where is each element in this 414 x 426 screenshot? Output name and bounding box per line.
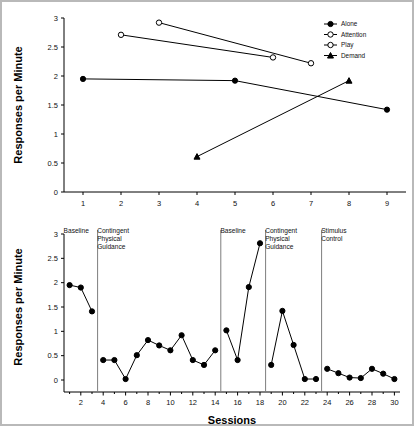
y-tick-label: 0 xyxy=(54,188,58,197)
data-point xyxy=(369,366,374,371)
x-tick-label: 8 xyxy=(146,398,150,407)
data-point xyxy=(80,76,85,81)
x-tick-label: 4 xyxy=(101,398,105,407)
y-tick-label: 2.5 xyxy=(48,43,58,52)
series-alone xyxy=(80,76,389,112)
y-tick-label: 2 xyxy=(54,278,58,287)
phase-1: Baseline xyxy=(64,227,95,314)
data-point xyxy=(201,362,206,367)
data-point xyxy=(336,371,341,376)
y-tick-label: 0 xyxy=(54,376,58,385)
x-tick-label: 20 xyxy=(278,398,286,407)
data-point xyxy=(232,78,237,83)
series-line xyxy=(121,35,273,58)
data-point xyxy=(302,376,307,381)
phase-label: Physical xyxy=(265,235,290,243)
x-tick-label: 30 xyxy=(390,398,398,407)
phase-4: ContingentPhysicalGuidance xyxy=(265,227,318,382)
data-point xyxy=(112,357,117,362)
data-point xyxy=(123,376,128,381)
x-tick-label: 16 xyxy=(233,398,241,407)
data-point xyxy=(308,61,313,66)
legend-marker xyxy=(328,21,333,26)
data-point xyxy=(67,283,72,288)
bottom-axes: 00.511.522.5324681012141618202224262830R… xyxy=(12,230,400,426)
x-tick-label: 22 xyxy=(301,398,309,407)
y-tick-label: 2.5 xyxy=(48,254,58,263)
phase-label: Baseline xyxy=(220,227,246,234)
phase-label: Stimulus xyxy=(321,227,347,234)
data-point xyxy=(134,353,139,358)
data-point xyxy=(313,376,318,381)
series-demand xyxy=(194,78,352,160)
bottom-series-group: BaselineContingentPhysicalGuidanceBaseli… xyxy=(64,227,397,382)
phase-label: Physical xyxy=(97,235,122,243)
data-point xyxy=(118,32,123,37)
phase-label: Guidance xyxy=(97,243,126,250)
data-point xyxy=(381,371,386,376)
x-tick-label: 1 xyxy=(81,199,85,208)
legend-label: Attention xyxy=(341,31,367,38)
y-tick-label: 2 xyxy=(54,72,58,81)
data-point xyxy=(235,357,240,362)
y-tick-label: 1 xyxy=(54,130,58,139)
x-tick-label: 2 xyxy=(119,199,123,208)
x-tick-label: 28 xyxy=(368,398,376,407)
x-axis-title: Sessions xyxy=(208,414,256,426)
x-tick-label: 8 xyxy=(347,199,351,208)
top-chart-svg: 00.511.522.53123456789Responses per Minu… xyxy=(2,2,414,214)
data-point xyxy=(156,20,161,25)
data-point xyxy=(194,154,200,160)
data-point xyxy=(101,357,106,362)
data-point xyxy=(270,55,275,60)
y-tick-label: 3 xyxy=(54,230,58,239)
top-chart-panel: 00.511.522.53123456789Responses per Minu… xyxy=(2,2,414,214)
data-point xyxy=(246,284,251,289)
series-line xyxy=(197,81,349,157)
bottom-chart-panel: 00.511.522.5324681012141618202224262830R… xyxy=(2,214,414,426)
data-point xyxy=(325,366,330,371)
x-tick-label: 2 xyxy=(79,398,83,407)
x-tick-label: 9 xyxy=(385,199,389,208)
phase-label: Guidance xyxy=(265,243,294,250)
legend-label: Play xyxy=(341,41,354,49)
y-axis-title: Responses per Minute xyxy=(12,46,24,163)
y-axis-title: Responses per Minute xyxy=(12,248,24,365)
x-tick-label: 7 xyxy=(309,199,313,208)
phase-label: Baseline xyxy=(64,227,90,234)
y-tick-label: 0.5 xyxy=(48,159,58,168)
x-tick-label: 5 xyxy=(233,199,237,208)
data-point xyxy=(89,309,94,314)
y-tick-label: 3 xyxy=(54,14,58,23)
x-tick-label: 14 xyxy=(211,398,219,407)
data-point xyxy=(157,343,162,348)
y-tick-label: 1.5 xyxy=(48,303,58,312)
phase-line xyxy=(226,243,260,360)
data-point xyxy=(346,78,352,84)
phase-line xyxy=(103,335,215,379)
y-tick-label: 1 xyxy=(54,327,58,336)
data-point xyxy=(145,337,150,342)
data-point xyxy=(358,375,363,380)
data-point xyxy=(257,241,262,246)
data-point xyxy=(392,376,397,381)
x-tick-label: 6 xyxy=(271,199,275,208)
x-tick-label: 6 xyxy=(124,398,128,407)
data-point xyxy=(224,328,229,333)
x-tick-label: 12 xyxy=(189,398,197,407)
data-point xyxy=(78,285,83,290)
data-point xyxy=(190,357,195,362)
y-tick-label: 1.5 xyxy=(48,101,58,110)
x-tick-label: 3 xyxy=(157,199,161,208)
data-point xyxy=(269,362,274,367)
data-point xyxy=(168,348,173,353)
phase-label: Contingent xyxy=(265,227,297,235)
data-point xyxy=(347,375,352,380)
figure-container: 00.511.522.53123456789Responses per Minu… xyxy=(0,0,414,426)
series-play xyxy=(156,20,313,66)
phase-5: StimulusControl xyxy=(321,227,397,382)
top-legend: AloneAttentionPlayDemand xyxy=(324,20,367,59)
x-tick-label: 4 xyxy=(195,199,199,208)
phase-label: Control xyxy=(321,235,343,242)
y-tick-label: 0.5 xyxy=(48,351,58,360)
